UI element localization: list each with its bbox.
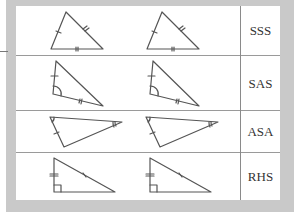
triangles-drawing: [16, 6, 240, 200]
frame-tick-mark: [0, 51, 8, 52]
asa-triangle-left: [50, 117, 122, 147]
label-asa: ASA: [241, 111, 280, 153]
sss-triangle-right: [147, 12, 199, 51]
asa-triangle-right: [146, 117, 218, 147]
sas-triangle-right: [148, 61, 199, 106]
label-sas: SAS: [241, 56, 280, 111]
rhs-triangle-left: [50, 158, 115, 192]
congruence-table: SSS SAS ASA RHS: [16, 6, 280, 200]
sas-triangle-left: [51, 61, 103, 106]
sss-triangle-left: [51, 12, 103, 51]
label-sss: SSS: [241, 6, 280, 56]
rhs-triangle-right: [146, 158, 211, 192]
label-rhs: RHS: [241, 153, 280, 200]
